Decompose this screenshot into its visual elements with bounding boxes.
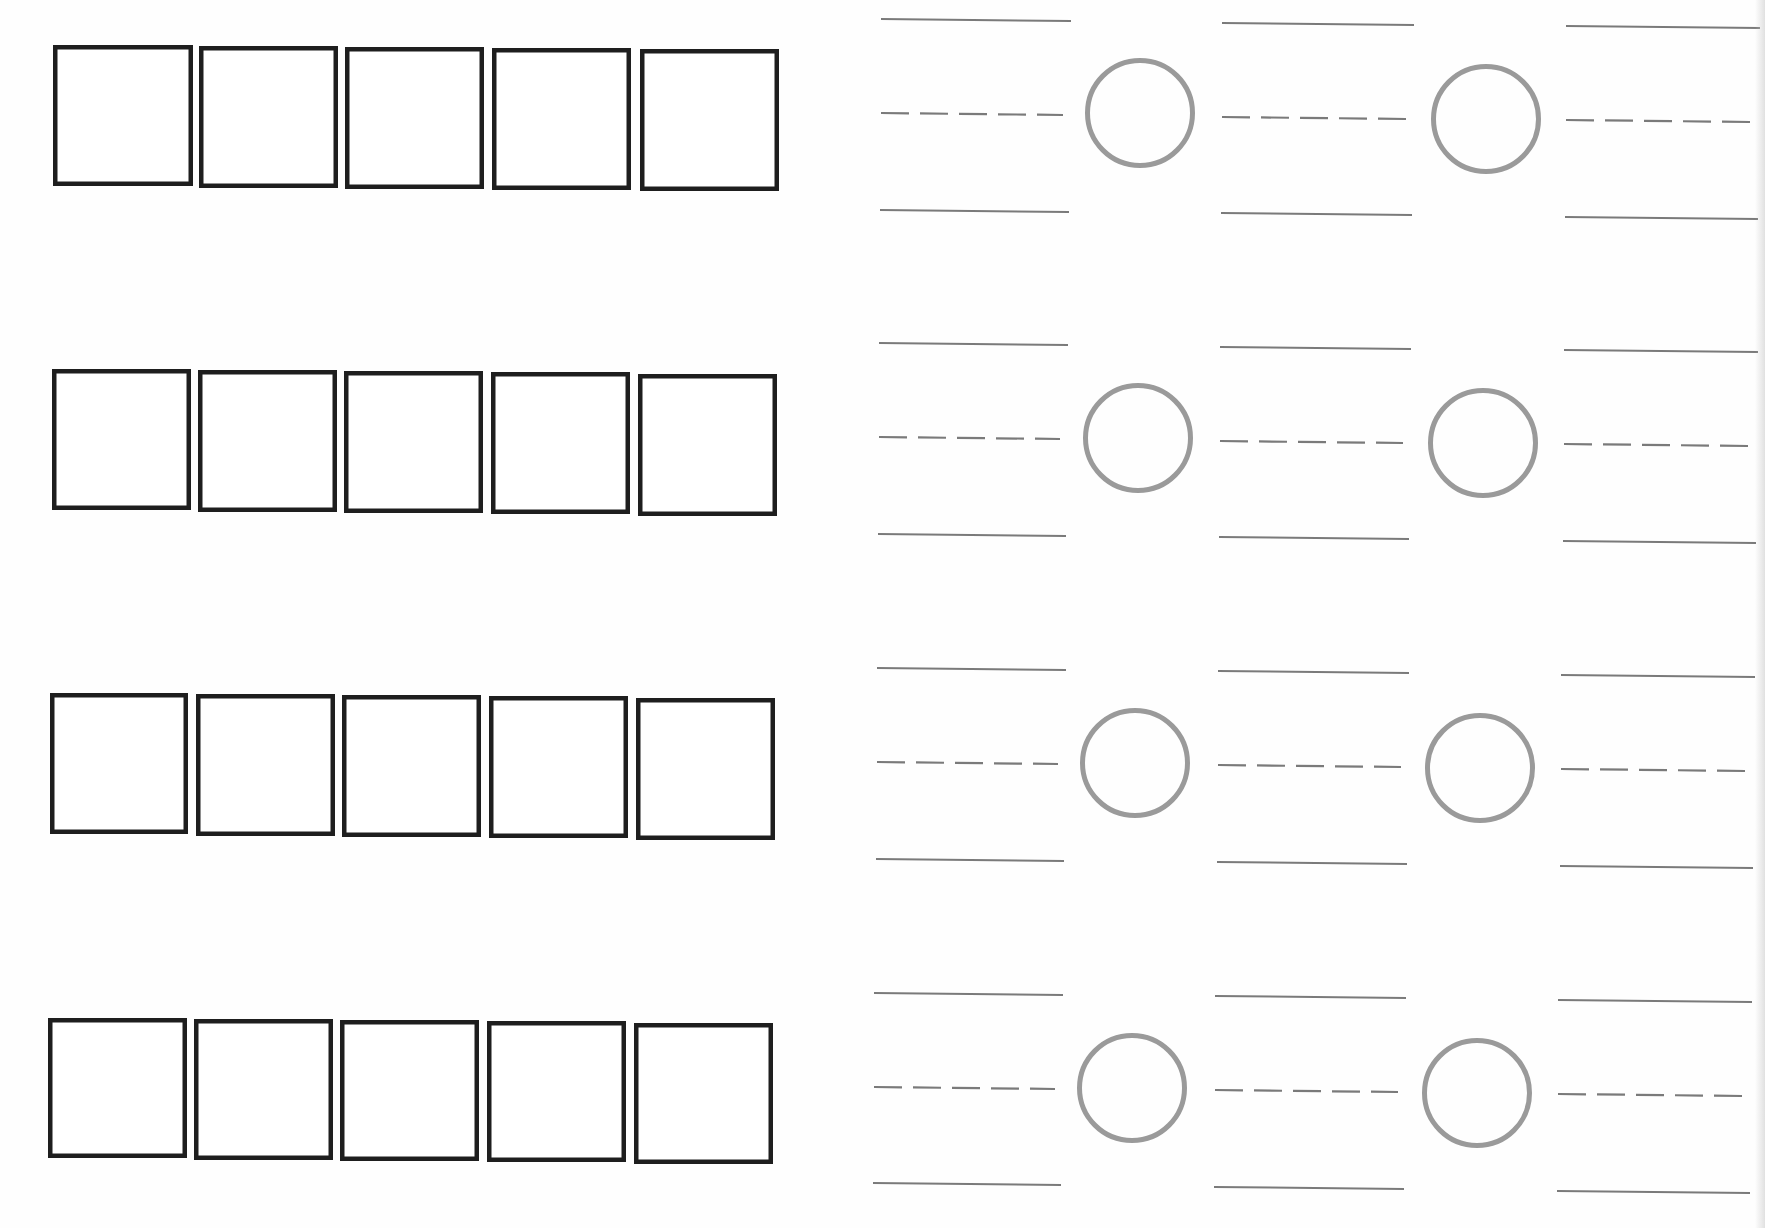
number-box-group [52, 695, 773, 838]
dashed-midline [881, 113, 1063, 115]
bottom-writing-line[interactable] [873, 1183, 1061, 1185]
bottom-writing-line[interactable] [1221, 213, 1412, 215]
dashed-midline [1222, 117, 1406, 119]
top-writing-line[interactable] [877, 668, 1066, 670]
dashed-midline [1564, 444, 1750, 446]
writing-box-5[interactable] [640, 376, 775, 514]
answer-line-group-2 [1221, 23, 1414, 215]
top-writing-line[interactable] [1222, 23, 1414, 25]
dashed-midline [1220, 441, 1403, 443]
bottom-writing-line[interactable] [1563, 541, 1756, 543]
writing-box-5[interactable] [642, 51, 777, 189]
top-writing-line[interactable] [881, 19, 1071, 21]
writing-box-3[interactable] [346, 373, 481, 511]
writing-box-5[interactable] [638, 700, 773, 838]
top-writing-line[interactable] [1218, 671, 1409, 673]
dashed-midline [1566, 120, 1752, 122]
worksheet-row-4 [50, 993, 1752, 1193]
dashed-midline [1561, 769, 1747, 771]
writing-box-3[interactable] [347, 49, 482, 187]
bottom-writing-line[interactable] [880, 210, 1069, 212]
writing-box-5[interactable] [636, 1025, 771, 1162]
answer-line-group-2 [1217, 671, 1409, 864]
writing-box-4[interactable] [493, 374, 628, 512]
dashed-midline [1215, 1090, 1398, 1092]
worksheet-row-3 [52, 668, 1755, 868]
answer-line-group-1 [878, 343, 1068, 536]
writing-box-4[interactable] [494, 50, 629, 188]
bottom-writing-line[interactable] [1219, 537, 1409, 539]
bottom-writing-line[interactable] [1214, 1187, 1404, 1189]
writing-box-2[interactable] [200, 372, 335, 510]
answer-line-group-3 [1565, 26, 1760, 219]
writing-box-4[interactable] [491, 698, 626, 836]
comparison-circle-1[interactable] [1080, 1036, 1185, 1141]
bottom-writing-line[interactable] [878, 534, 1066, 536]
comparison-circle-1[interactable] [1083, 711, 1188, 816]
comparison-circle-1[interactable] [1086, 386, 1191, 491]
writing-box-1[interactable] [55, 47, 191, 184]
answer-line-group-2 [1214, 996, 1406, 1189]
writing-box-4[interactable] [489, 1023, 624, 1160]
writing-box-1[interactable] [50, 1020, 185, 1156]
answer-line-group-1 [873, 993, 1063, 1185]
number-box-group [54, 371, 775, 514]
writing-box-2[interactable] [198, 696, 333, 834]
comparison-circle-2[interactable] [1425, 1041, 1530, 1146]
writing-box-2[interactable] [201, 48, 336, 186]
worksheet-row-1 [55, 19, 1760, 219]
answer-line-group-2 [1219, 347, 1411, 539]
dashed-midline [879, 437, 1060, 439]
top-writing-line[interactable] [1566, 26, 1760, 28]
answer-line-group-1 [880, 19, 1071, 212]
bottom-writing-line[interactable] [876, 859, 1064, 861]
answer-line-group-3 [1560, 675, 1755, 868]
writing-box-3[interactable] [342, 1022, 477, 1159]
answer-line-group-3 [1557, 1000, 1752, 1193]
top-writing-line[interactable] [1558, 1000, 1752, 1002]
dashed-midline [874, 1087, 1055, 1089]
top-writing-line[interactable] [1561, 675, 1755, 677]
bottom-writing-line[interactable] [1565, 217, 1758, 219]
top-writing-line[interactable] [1564, 350, 1758, 352]
answer-line-group-3 [1563, 350, 1758, 543]
comparison-circle-2[interactable] [1434, 67, 1539, 172]
dashed-midline [877, 762, 1058, 764]
worksheet-row-2 [54, 343, 1758, 543]
top-writing-line[interactable] [874, 993, 1063, 995]
dashed-midline [1558, 1094, 1744, 1096]
writing-box-2[interactable] [196, 1021, 331, 1158]
writing-box-1[interactable] [54, 371, 189, 508]
top-writing-line[interactable] [1215, 996, 1406, 998]
dashed-midline [1218, 765, 1401, 767]
top-writing-line[interactable] [879, 343, 1068, 345]
writing-box-3[interactable] [344, 697, 479, 835]
number-box-group [50, 1020, 771, 1162]
answer-line-group-1 [876, 668, 1066, 861]
worksheet-page [0, 0, 1765, 1228]
comparison-circle-2[interactable] [1428, 716, 1533, 821]
bottom-writing-line[interactable] [1557, 1191, 1750, 1193]
comparison-circle-2[interactable] [1431, 391, 1536, 496]
writing-box-1[interactable] [52, 695, 186, 832]
worksheet-canvas [0, 0, 1765, 1228]
comparison-circle-1[interactable] [1088, 61, 1193, 166]
bottom-writing-line[interactable] [1560, 866, 1753, 868]
top-writing-line[interactable] [1220, 347, 1411, 349]
number-box-group [55, 47, 777, 189]
bottom-writing-line[interactable] [1217, 862, 1407, 864]
